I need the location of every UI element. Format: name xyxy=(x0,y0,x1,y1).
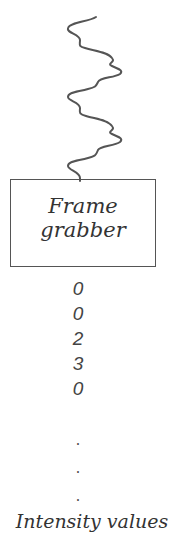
ellipsis-dot: . xyxy=(58,460,98,476)
intensity-value: 0 xyxy=(58,278,98,300)
caption: Intensity values xyxy=(0,510,184,532)
ellipsis-dot: . xyxy=(58,488,98,504)
ellipsis-dot: . xyxy=(58,432,98,448)
frame-grabber-label: Frame grabber xyxy=(11,194,155,242)
intensity-value: 2 xyxy=(58,328,98,350)
intensity-value: 0 xyxy=(58,378,98,400)
wave-signal-icon xyxy=(0,0,184,182)
frame-grabber-line1: Frame xyxy=(11,194,155,218)
intensity-value: 3 xyxy=(58,353,98,375)
frame-grabber-box: Frame grabber xyxy=(10,179,156,267)
frame-grabber-line2: grabber xyxy=(11,218,155,242)
intensity-value: 0 xyxy=(58,303,98,325)
